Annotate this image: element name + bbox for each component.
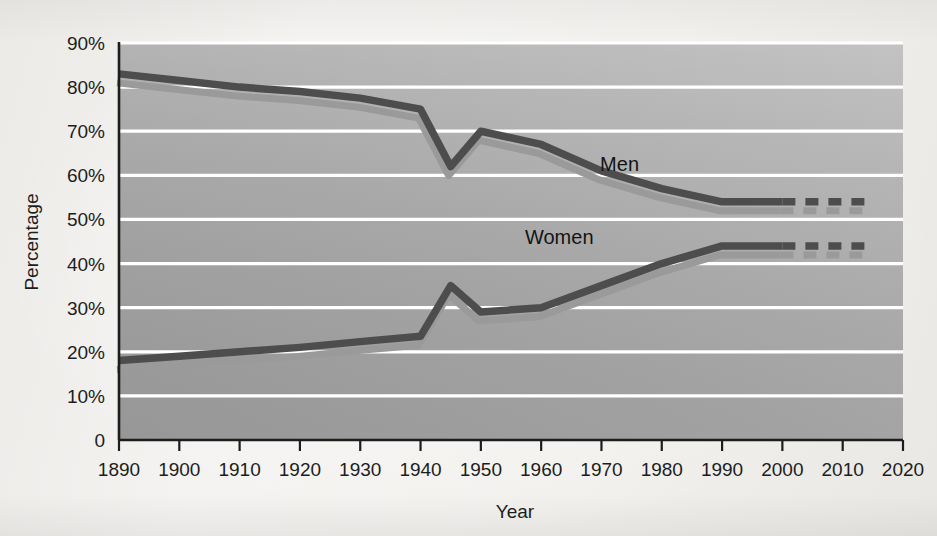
y-tick-label: 20%: [67, 342, 105, 363]
x-tick-label: 1940: [399, 459, 441, 480]
x-tick-label: 1990: [701, 459, 743, 480]
y-axis-title: Percentage: [21, 193, 42, 290]
series-label-women: Women: [525, 226, 594, 248]
y-tick-label: 30%: [67, 298, 105, 319]
y-tick-label: 0: [94, 430, 105, 451]
x-tick-label: 1960: [520, 459, 562, 480]
x-tick-label: 2020: [882, 459, 924, 480]
x-tick-label: 1980: [641, 459, 683, 480]
y-tick-label: 70%: [67, 121, 105, 142]
x-tick-label: 1970: [580, 459, 622, 480]
chart-figure: 010%20%30%40%50%60%70%80%90%189019001910…: [0, 0, 937, 536]
x-tick-label: 1890: [98, 459, 140, 480]
x-tick-label: 1930: [339, 459, 381, 480]
x-tick-label: 1920: [279, 459, 321, 480]
y-tick-label: 10%: [67, 386, 105, 407]
x-tick-label: 1900: [158, 459, 200, 480]
x-tick-label: 1910: [218, 459, 260, 480]
x-tick-label: 1950: [460, 459, 502, 480]
plot-area: [119, 43, 903, 440]
x-tick-label: 2000: [761, 459, 803, 480]
series-label-men: Men: [600, 153, 639, 175]
plot-shading: [119, 43, 903, 440]
line-chart-svg: 010%20%30%40%50%60%70%80%90%189019001910…: [0, 0, 937, 536]
x-axis-title: Year: [496, 501, 535, 522]
plot-canvas: 010%20%30%40%50%60%70%80%90%189019001910…: [0, 0, 937, 536]
y-tick-label: 60%: [67, 165, 105, 186]
y-tick-label: 40%: [67, 254, 105, 275]
y-tick-label: 50%: [67, 209, 105, 230]
y-tick-label: 80%: [67, 77, 105, 98]
y-tick-label: 90%: [67, 33, 105, 54]
x-tick-label: 2010: [822, 459, 864, 480]
